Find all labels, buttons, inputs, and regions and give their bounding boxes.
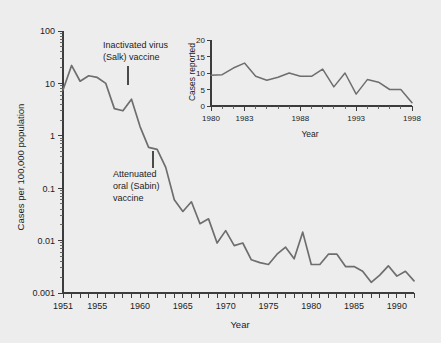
main-x-tick-label: 1965 [173, 301, 193, 311]
annotation-salk-line1: Inactivated virus [103, 40, 169, 50]
main-x-tick-label: 1975 [258, 301, 278, 311]
inset-y-tick-label: 15 [196, 53, 205, 62]
main-x-axis-title: Year [230, 319, 249, 330]
annotation-salk-line2: (Salk) vaccine [103, 52, 160, 62]
inset-y-tick-label: 20 [196, 36, 205, 45]
main-y-tick-label: 0.001 [32, 288, 55, 298]
main-x-tick-label: 1970 [216, 301, 236, 311]
main-y-tick-label: 1 [50, 131, 55, 141]
main-y-axis-title: Cases per 100,000 population [15, 104, 26, 231]
main-y-tick-label: 10 [45, 79, 55, 89]
main-x-tick-label: 1990 [387, 301, 407, 311]
inset-x-tick-label: 1983 [236, 114, 254, 123]
annotation-sabin-line3: vaccine [113, 193, 144, 203]
inset-x-tick-label: 1993 [347, 114, 365, 123]
inset-y-tick-label: 10 [196, 69, 205, 78]
main-x-tick-label: 1960 [130, 301, 150, 311]
main-x-tick-label: 1985 [344, 301, 364, 311]
main-y-tick-label: 0.01 [37, 236, 55, 246]
main-x-tick-label: 1951 [53, 301, 73, 311]
inset-y-tick-label: 0 [201, 102, 206, 111]
annotation-sabin-line1: Attenuated [113, 169, 157, 179]
main-y-tick-label: 100 [40, 26, 55, 36]
annotation-sabin-line2: oral (Sabin) [113, 181, 160, 191]
figure-background [0, 0, 441, 343]
main-x-tick-label: 1955 [87, 301, 107, 311]
inset-x-tick-label: 1988 [291, 114, 309, 123]
main-x-tick-labels: 195119551960196519701975198019851990 [53, 301, 407, 311]
polio-incidence-figure: 1001010.10.010.001 195119551960196519701… [0, 0, 441, 343]
chart-svg: 1001010.10.010.001 195119551960196519701… [0, 0, 441, 343]
main-y-tick-label: 0.1 [42, 184, 55, 194]
inset-y-axis-title: Cases reported [187, 43, 197, 101]
inset-y-tick-label: 5 [201, 86, 206, 95]
inset-x-tick-label: 1998 [403, 114, 421, 123]
inset-x-axis-title: Year [301, 129, 318, 139]
main-x-tick-label: 1980 [301, 301, 321, 311]
inset-x-tick-label: 1980 [202, 114, 220, 123]
